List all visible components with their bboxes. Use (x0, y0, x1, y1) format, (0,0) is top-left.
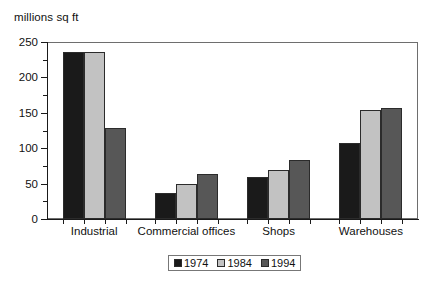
y-tick-label-50: 50 (4, 178, 38, 190)
x-tick (218, 220, 219, 224)
bars-layer (48, 42, 417, 219)
x-tick (105, 220, 106, 224)
legend-swatch-1984 (217, 259, 225, 267)
legend-label-1984: 1984 (227, 258, 251, 269)
x-tick (176, 220, 177, 224)
x-tick (84, 220, 85, 224)
y-tick-100 (41, 148, 47, 149)
y-tick-label-250: 250 (4, 36, 38, 48)
bar-shops-1994 (289, 160, 310, 219)
y-minor-tick-225 (43, 60, 47, 61)
x-tick (126, 220, 127, 224)
y-tick-250 (41, 42, 47, 43)
legend-item-1994: 1994 (261, 258, 295, 269)
x-tick (268, 220, 269, 224)
x-label-commercial-offices: Commercial offices (138, 225, 236, 237)
x-tick (339, 220, 340, 224)
x-label-industrial: Industrial (71, 225, 118, 237)
x-tick (402, 220, 403, 224)
x-axis-line (47, 219, 419, 220)
chart-legend: 197419841994 (168, 255, 301, 271)
y-tick-label-200: 200 (4, 71, 38, 83)
x-tick (197, 220, 198, 224)
bar-warehouses-1994 (381, 108, 402, 219)
y-tick-50 (41, 184, 47, 185)
y-axis-title: millions sq ft (14, 11, 79, 23)
x-tick (360, 220, 361, 224)
bar-commercial-offices-1974 (155, 193, 176, 219)
y-tick-150 (41, 113, 47, 114)
bar-industrial-1974 (63, 52, 84, 219)
legend-label-1994: 1994 (271, 258, 295, 269)
bar-warehouses-1984 (360, 110, 381, 219)
y-tick-label-150: 150 (4, 107, 38, 119)
legend-item-1984: 1984 (217, 258, 251, 269)
y-tick-label-0: 0 (4, 213, 38, 225)
bar-industrial-1994 (105, 128, 126, 219)
x-tick (63, 220, 64, 224)
bar-shops-1974 (247, 177, 268, 219)
x-label-shops: Shops (262, 225, 295, 237)
bar-commercial-offices-1984 (176, 184, 197, 219)
legend-swatch-1974 (174, 259, 182, 267)
x-tick (289, 220, 290, 224)
y-minor-tick-125 (43, 131, 47, 132)
y-minor-tick-75 (43, 166, 47, 167)
x-tick (155, 220, 156, 224)
y-minor-tick-175 (43, 95, 47, 96)
y-tick-200 (41, 77, 47, 78)
legend-swatch-1994 (261, 259, 269, 267)
bar-shops-1984 (268, 170, 289, 219)
bar-warehouses-1974 (339, 143, 360, 219)
x-tick (381, 220, 382, 224)
y-tick-label-100: 100 (4, 142, 38, 154)
x-tick (247, 220, 248, 224)
bar-chart: millions sq ft 050100150200250 Industria… (0, 0, 448, 284)
y-minor-tick-25 (43, 201, 47, 202)
x-tick (310, 220, 311, 224)
bar-commercial-offices-1994 (197, 174, 218, 219)
legend-item-1974: 1974 (174, 258, 208, 269)
x-label-warehouses: Warehouses (339, 225, 403, 237)
bar-industrial-1984 (84, 52, 105, 219)
legend-label-1974: 1974 (184, 258, 208, 269)
